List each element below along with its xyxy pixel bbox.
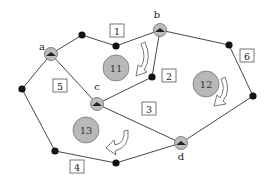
- vertex-dot: [148, 73, 155, 80]
- face-label: 11: [110, 63, 123, 74]
- vertex-dot: [51, 147, 58, 154]
- node-d: d: [175, 137, 188, 163]
- vertex-dot: [112, 42, 119, 49]
- edge-label-box-4: 4: [70, 160, 84, 173]
- edge-label: 4: [74, 162, 80, 173]
- edge-label: 3: [146, 104, 152, 115]
- face-12: 12: [193, 71, 219, 97]
- graph-diagram: abcd 123456 111213: [0, 0, 274, 184]
- node-label: d: [178, 151, 185, 162]
- node-c: c: [91, 81, 104, 111]
- clockwise-arrow-icon-13: [106, 130, 128, 155]
- face-label: 12: [200, 79, 213, 90]
- edge-label-box-2: 2: [162, 69, 176, 82]
- edge-label: 2: [166, 71, 172, 82]
- edge-label-box-5: 5: [53, 79, 67, 92]
- vertex-dot: [18, 85, 25, 92]
- edge-label: 6: [244, 51, 250, 62]
- edge-label-box-3: 3: [142, 102, 156, 115]
- face-11: 11: [103, 55, 129, 81]
- vertex-dot: [78, 31, 85, 38]
- edge-label-box-1: 1: [110, 24, 124, 37]
- edge-label: 1: [114, 26, 120, 37]
- vertex-dot: [112, 159, 119, 166]
- edge-3: [97, 104, 181, 143]
- vertex-dot: [249, 92, 256, 99]
- face-13: 13: [73, 117, 99, 143]
- node-b: b: [154, 9, 167, 37]
- node-label: b: [154, 9, 160, 20]
- face-label: 13: [80, 125, 93, 136]
- node-a: a: [39, 41, 57, 61]
- node-label: c: [94, 81, 100, 92]
- edge-label-box-6: 6: [240, 49, 254, 62]
- node-label: a: [39, 41, 45, 52]
- edge-label: 5: [57, 81, 63, 92]
- vertex-dot: [225, 41, 232, 48]
- clockwise-arrow-icon-11: [136, 42, 148, 76]
